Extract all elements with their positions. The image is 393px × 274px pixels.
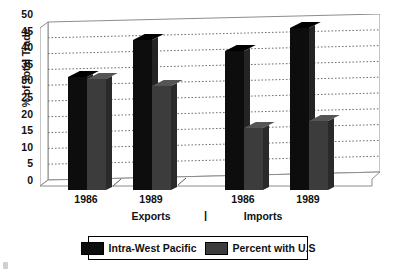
bar-front-face <box>87 79 106 190</box>
y-tick-35: 35 <box>13 59 33 70</box>
bar-side-face <box>171 83 177 190</box>
bar-exports-1986-percent-with-us <box>87 79 106 190</box>
y-axis-tick-labels: 50 45 40 35 30 25 20 15 10 5 0 <box>11 14 33 190</box>
bar-imports-1986-intra-west-pacific <box>225 51 244 190</box>
y-tick-20: 20 <box>13 109 33 120</box>
bar-exports-1989-percent-with-us <box>152 86 171 190</box>
bar-side-face <box>328 118 334 190</box>
bar-front-face <box>133 40 152 190</box>
bar-imports-1989-percent-with-us <box>309 121 328 190</box>
legend-swatch-icon-intra-west-pacific <box>81 242 104 255</box>
y-tick-5: 5 <box>13 158 33 169</box>
x-tick-imports-1986: 1986 <box>220 193 266 205</box>
legend-item-percent-with-us: Percent with U.S <box>205 242 316 255</box>
bar-imports-1986-percent-with-us <box>244 128 263 190</box>
x-tick-exports-1986: 1986 <box>63 193 109 205</box>
x-axis-tick-labels: 1986 1989 1986 1989 <box>0 193 393 209</box>
chart-legend: Intra-West Pacific Percent with U.S <box>88 236 308 260</box>
group-separator: | <box>204 209 207 221</box>
group-label-imports: Imports <box>228 210 298 222</box>
bar-side-face <box>106 76 112 190</box>
y-tick-50: 50 <box>13 9 33 20</box>
chart-container: % of Total Trade 50 45 40 35 30 25 20 15… <box>0 0 393 274</box>
y-tick-40: 40 <box>13 42 33 53</box>
legend-label-percent-with-us: Percent with U.S <box>233 242 316 254</box>
bar-exports-1989-intra-west-pacific <box>133 40 152 190</box>
legend-label-intra-west-pacific: Intra-West Pacific <box>109 242 197 254</box>
group-label-exports: Exports <box>116 210 186 222</box>
bar-front-face <box>290 28 309 190</box>
scan-artifact <box>3 262 8 269</box>
bar-front-face <box>68 77 87 190</box>
bar-front-face <box>244 128 263 190</box>
y-tick-0: 0 <box>13 175 33 186</box>
x-tick-exports-1989: 1989 <box>128 193 174 205</box>
bar-front-face <box>225 51 244 190</box>
x-tick-imports-1989: 1989 <box>285 193 331 205</box>
bar-imports-1989-intra-west-pacific <box>290 28 309 190</box>
plot-area <box>40 14 380 190</box>
bar-exports-1986-intra-west-pacific <box>68 77 87 190</box>
bar-front-face <box>152 86 171 190</box>
bar-front-face <box>309 121 328 190</box>
y-tick-30: 30 <box>13 75 33 86</box>
legend-item-intra-west-pacific: Intra-West Pacific <box>81 242 197 255</box>
legend-swatch-icon-percent-with-us <box>205 242 228 255</box>
y-tick-25: 25 <box>13 92 33 103</box>
y-tick-15: 15 <box>13 125 33 136</box>
y-tick-45: 45 <box>13 26 33 37</box>
y-tick-10: 10 <box>13 142 33 153</box>
bar-side-face <box>263 125 269 190</box>
